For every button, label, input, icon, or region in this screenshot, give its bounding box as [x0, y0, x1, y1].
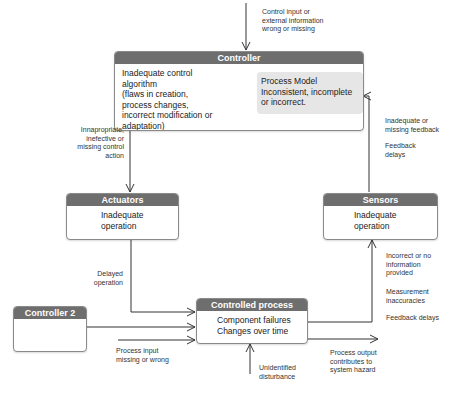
label-feedback-delays-bottom: Feedback delays	[386, 314, 439, 323]
actuators-title: Actuators	[67, 194, 178, 206]
label-control-action: Innapropriate, inefective or missing con…	[72, 126, 124, 160]
label-disturbance: Unidentified disturbance	[259, 364, 296, 381]
label-process-output: Process output contributes to system haz…	[330, 349, 377, 375]
sensors-title: Sensors	[324, 194, 437, 206]
process-model-box: Process Model Inconsistent, incomplete o…	[257, 72, 363, 114]
label-inadequate-feedback: Inadequate or missing feedback	[385, 117, 439, 134]
sensors-body: Inadequate operation	[354, 210, 397, 231]
label-measurement: Measurement inaccuracies	[386, 288, 429, 305]
controller-algorithm-text: Inadequate control algorithm (flaws in c…	[122, 68, 212, 131]
label-process-input: Process input missing or wrong	[116, 347, 169, 364]
controller2-box[interactable]: Controller 2	[13, 306, 87, 352]
controller-title: Controller	[115, 52, 363, 64]
controlled-process-box[interactable]: Controlled process Component failures Ch…	[196, 298, 308, 344]
actuators-box[interactable]: Actuators Inadequate operation	[66, 193, 179, 240]
sensors-box[interactable]: Sensors Inadequate operation	[323, 193, 438, 240]
label-feedback-delays-top: Feedback delays	[385, 142, 416, 159]
actuators-body: Inadequate operation	[101, 210, 144, 231]
label-control-input: Control input or external information wr…	[262, 8, 323, 34]
controller2-title: Controller 2	[14, 307, 86, 319]
label-incorrect-info: Incorrect or no information provided	[386, 252, 431, 278]
controlled-process-body: Component failures Changes over time	[217, 315, 291, 336]
controlled-process-title: Controlled process	[197, 299, 307, 311]
label-delayed-operation: Delayed operation	[91, 270, 123, 287]
